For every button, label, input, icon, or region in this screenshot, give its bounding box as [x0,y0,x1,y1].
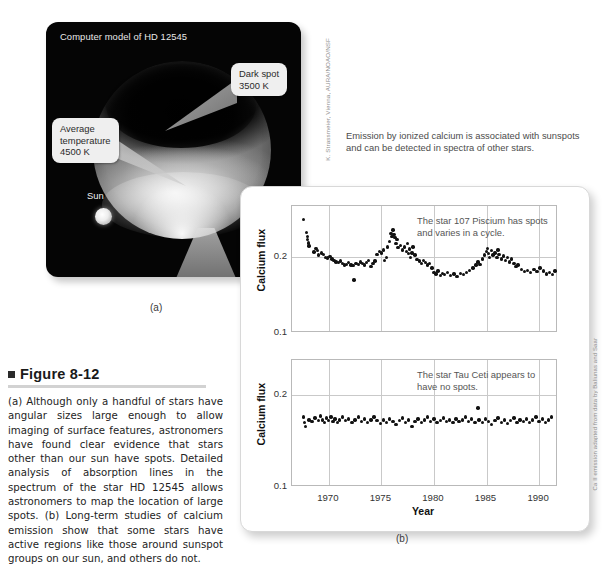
data-point [403,245,406,248]
data-point [534,415,537,418]
data-point [525,417,528,420]
data-point [426,415,429,418]
data-point [487,252,490,255]
gridline-horizontal [292,395,556,396]
data-point [506,256,509,259]
y-axis-tick-label: 0.1 [261,326,287,337]
data-point [411,245,414,248]
panel-b-charts: Calcium flux The star 107 Piscium has sp… [240,186,590,532]
y-axis-tick-label: 0.2 [261,388,287,399]
data-point [442,416,445,419]
panel-b-credit: Ca II emission adapted from data by Bali… [592,338,598,490]
data-point [470,417,473,420]
data-point [500,257,503,260]
callout-average-temperature: Average temperature 4500 K [52,118,119,163]
data-point [503,418,506,421]
data-point [385,421,388,424]
data-point [341,415,344,418]
data-point [451,421,454,424]
gridline-vertical [329,206,330,331]
data-point [493,251,496,254]
data-point [483,253,486,256]
figure-heading: Figure 8-12 [8,366,223,382]
data-point [369,265,372,268]
data-point [394,423,397,426]
panel-a-title: Computer model of HD 12545 [60,31,187,42]
x-axis-tick-label: 1990 [518,492,558,503]
chart-annotation-top: The star 107 Piscium has spots and varie… [417,215,553,239]
y-axis-tick-label: 0.1 [261,480,287,491]
data-point [504,259,507,262]
data-point [385,256,388,259]
caption-body: (a) Although only a handful of stars hav… [8,395,223,567]
data-point [302,218,305,221]
chart-annotation-bottom: The star Tau Ceti appears to have no spo… [417,369,553,393]
x-axis-label: Year [291,505,555,517]
data-point [502,254,505,257]
data-point [357,415,360,418]
data-point [476,406,479,409]
data-point [435,421,438,424]
sun-disc [95,208,112,225]
x-axis-tick-label: 1980 [413,492,453,503]
data-point [473,421,476,424]
data-point [486,247,489,250]
data-point [303,421,306,424]
data-point [304,425,307,428]
data-point [471,266,474,269]
data-point [496,248,499,251]
data-point [373,259,376,262]
data-point [375,253,378,256]
data-point [510,257,513,260]
data-point [399,244,402,247]
data-point [353,418,356,421]
data-point [439,419,442,422]
chart-107-piscium: Calcium flux The star 107 Piscium has sp… [241,187,589,359]
data-point [380,251,383,254]
sun-label: Sun [87,190,104,201]
data-point [420,262,423,265]
data-point [496,416,499,419]
data-point [478,263,481,266]
data-point [329,415,332,418]
data-point [317,419,320,422]
data-point [410,425,413,428]
data-point [434,272,437,275]
callout-dark-spot: Dark spot 3500 K [231,63,287,96]
data-point [495,256,498,259]
data-point [529,271,532,274]
data-point [323,421,326,424]
gridline-vertical [329,360,330,485]
data-point [401,248,404,251]
panel-a-label: (a) [150,302,162,313]
data-point [398,419,401,422]
chart-tau-ceti: Calcium flux The star Tau Ceti appears t… [241,345,589,531]
data-point [550,415,553,418]
data-point [305,231,308,234]
data-point [541,417,544,420]
data-point [302,415,305,418]
emission-note: Emission by ionized calcium is associate… [346,130,594,155]
data-point [316,249,319,252]
data-point [386,245,389,248]
data-point [416,417,419,420]
data-point [363,417,366,420]
data-point [436,269,439,272]
data-point [406,242,409,245]
data-point [490,423,493,426]
data-point [474,263,477,266]
data-point [395,238,398,241]
data-point [352,278,355,281]
data-point [455,275,458,278]
figure-caption: Figure 8-12 (a) Although only a handful … [8,366,223,567]
x-axis-tick-label: 1975 [360,492,400,503]
data-point [461,418,464,421]
data-point [401,416,404,419]
x-axis-tick-label: 1970 [308,492,348,503]
data-point [481,257,484,260]
data-point [551,273,554,276]
data-point [310,420,313,423]
data-point [388,240,391,243]
data-point [391,228,394,231]
